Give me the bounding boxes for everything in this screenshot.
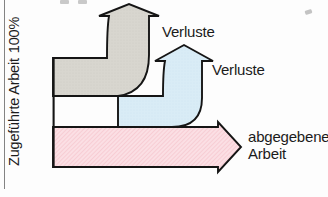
figure-canvas: Zugeführte Arbeit 100% Verluste Verluste… (0, 0, 328, 197)
label-output-work: abgegebene Arbeit (248, 128, 326, 162)
flow-arrow-loss-upper (53, 4, 159, 96)
input-axis-caption-line1: Zugeführte Arbeit (6, 58, 22, 166)
label-loss-upper: Verluste (162, 23, 215, 40)
flow-arrow-output (53, 122, 241, 172)
input-axis-caption-line2: 100% (6, 17, 22, 53)
input-axis-caption: Zugeführte Arbeit 100% (6, 34, 50, 166)
label-loss-lower: Verluste (212, 61, 265, 78)
